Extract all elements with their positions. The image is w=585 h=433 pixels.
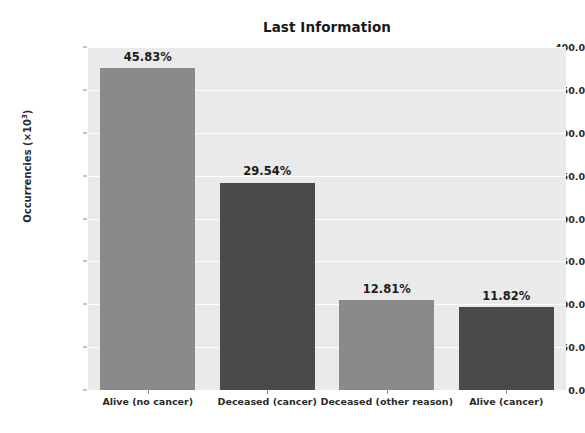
plot-area bbox=[88, 47, 566, 390]
bar[interactable] bbox=[459, 307, 554, 390]
bar-value-label: 11.82% bbox=[446, 289, 566, 303]
x-axis-tick-label: Deceased (other reason) bbox=[321, 396, 453, 407]
y-axis-tick-mark bbox=[83, 132, 87, 133]
chart-title: Last Information bbox=[88, 19, 566, 35]
y-axis-tick-mark bbox=[83, 47, 87, 48]
y-axis-tick-mark bbox=[83, 89, 87, 90]
y-axis-label-suffix: ) bbox=[22, 110, 33, 115]
gridline bbox=[88, 47, 566, 48]
bar[interactable] bbox=[220, 183, 315, 391]
x-axis-tick-label: Deceased (cancer) bbox=[218, 396, 317, 407]
y-axis-tick-mark bbox=[83, 218, 87, 219]
x-axis-tick-mark bbox=[267, 390, 268, 394]
y-axis-tick-mark bbox=[83, 304, 87, 305]
x-axis-tick-mark bbox=[387, 390, 388, 394]
bar-value-label: 45.83% bbox=[88, 50, 208, 64]
y-axis-tick-mark bbox=[83, 390, 87, 391]
bar-value-label: 29.54% bbox=[207, 164, 327, 178]
y-axis-label: Occurrencies (×103) bbox=[21, 76, 33, 256]
chart-figure: Last Information Occurrencies (×103) 0.0… bbox=[0, 0, 585, 433]
bar-value-label: 12.81% bbox=[327, 282, 447, 296]
x-axis-tick-mark bbox=[148, 390, 149, 394]
y-axis-label-text: Occurrencies (×10 bbox=[22, 119, 33, 223]
bar[interactable] bbox=[339, 300, 434, 390]
y-axis-label-exponent: 3 bbox=[21, 114, 29, 119]
bar[interactable] bbox=[100, 68, 195, 390]
y-axis-tick-mark bbox=[83, 175, 87, 176]
x-axis-tick-mark bbox=[506, 390, 507, 394]
y-axis-tick-mark bbox=[83, 347, 87, 348]
y-axis-tick-mark bbox=[83, 261, 87, 262]
x-axis-tick-label: Alive (cancer) bbox=[469, 396, 543, 407]
x-axis-tick-label: Alive (no cancer) bbox=[102, 396, 193, 407]
